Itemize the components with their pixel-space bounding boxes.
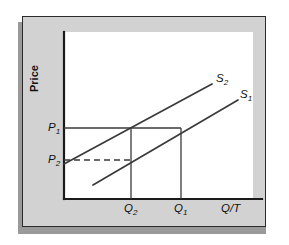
x-tick-label-q2-subscript: 2	[133, 208, 137, 217]
supply-curve-s2	[64, 84, 212, 164]
x-tick-label-q2-text: Q	[124, 202, 133, 214]
y-tick-label-p2-subscript: 2	[56, 159, 60, 168]
y-tick-label-p1: P1	[48, 122, 60, 134]
x-tick-label-q1: Q1	[174, 203, 187, 215]
curve-label-s2-subscript: 2	[224, 78, 228, 87]
supply-curve-s1	[93, 100, 238, 185]
figure-root: Price P1 P2 Q2 Q1 Q/T S2 S1	[0, 0, 289, 245]
y-tick-label-p2-text: P	[48, 153, 56, 165]
x-tick-label-q1-text: Q	[174, 202, 183, 214]
x-tick-label-q1-subscript: 1	[183, 208, 187, 217]
curve-label-s1: S1	[240, 89, 252, 101]
y-tick-label-p2: P2	[48, 154, 60, 166]
x-axis-title: Q/T	[221, 203, 240, 215]
y-tick-label-p1-subscript: 1	[56, 127, 60, 136]
curve-label-s1-text: S	[240, 88, 248, 100]
chart-svg	[0, 0, 289, 245]
y-axis-title: Price	[28, 65, 40, 92]
x-tick-label-q2: Q2	[124, 203, 137, 215]
curve-label-s2-text: S	[216, 72, 224, 84]
y-tick-label-p1-text: P	[48, 121, 56, 133]
curve-label-s2: S2	[216, 73, 228, 85]
curve-label-s1-subscript: 1	[248, 94, 252, 103]
